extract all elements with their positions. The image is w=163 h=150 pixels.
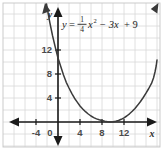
x-tick-label: 12: [119, 127, 130, 138]
equation-equals: =: [69, 19, 75, 30]
parabola-graph-figure: -4 0 4 8 12 4 8 12 x y y =: [0, 0, 163, 150]
x-tick-label: -4: [32, 127, 41, 138]
y-tick-label: 4: [47, 92, 53, 103]
x-tick-label: 8: [99, 127, 104, 138]
x-axis-label: x: [149, 128, 155, 139]
y-tick-label: 8: [47, 68, 52, 79]
y-tick-label: 12: [41, 44, 52, 55]
equation-term3: + 9: [124, 19, 138, 30]
graph-canvas: -4 0 4 8 12 4 8 12 x y y =: [0, 0, 163, 150]
x-tick-label: 4: [77, 127, 83, 138]
equation-term1-exponent: 2: [94, 17, 97, 24]
fraction-numerator: 1: [80, 15, 84, 24]
x-tick-label: 0: [47, 127, 52, 138]
equation-lhs: y: [61, 19, 67, 30]
equation-term1-variable: x: [87, 19, 93, 30]
fraction-denominator: 4: [80, 25, 84, 34]
equation-term2: − 3x: [99, 19, 119, 30]
